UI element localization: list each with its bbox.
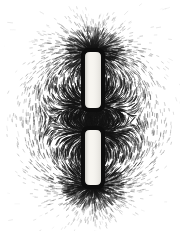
magnetic-field-figure xyxy=(0,0,183,239)
iron-filings-field-canvas xyxy=(0,0,183,239)
